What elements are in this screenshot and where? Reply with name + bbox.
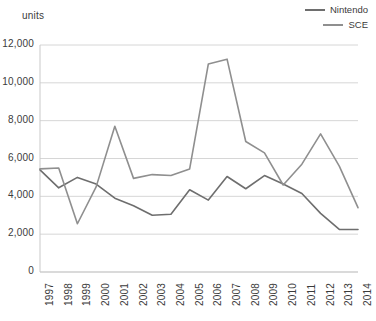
series-lines [40, 59, 358, 229]
legend-line-swatch [305, 9, 325, 11]
legend-line-swatch [323, 24, 343, 26]
series-line-nintendo [40, 170, 358, 230]
series-line-sce [40, 59, 358, 224]
legend-item-sce[interactable]: SCE [323, 19, 368, 30]
legend-label: SCE [348, 19, 368, 30]
line-chart: units 02,0004,0006,0008,00010,00012,000 … [0, 0, 376, 321]
gridlines [40, 45, 358, 272]
legend-item-nintendo[interactable]: Nintendo [305, 4, 368, 15]
legend-label: Nintendo [330, 4, 368, 15]
plot-area [0, 0, 376, 321]
